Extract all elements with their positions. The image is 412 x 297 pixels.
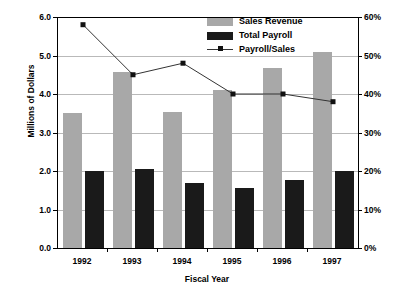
legend-item-payroll-sales: Payroll/Sales xyxy=(207,43,332,56)
y2-axis-tick-label: 0% xyxy=(364,244,408,253)
legend-swatch-icon-sales-revenue xyxy=(207,18,233,26)
line-marker-payroll-sales xyxy=(281,92,286,97)
y2-axis-tick-label: 60% xyxy=(364,13,408,22)
legend-label-total-payroll: Total Payroll xyxy=(239,31,292,40)
line-marker-payroll-sales xyxy=(131,72,136,77)
line-marker-payroll-sales xyxy=(231,92,236,97)
x-axis-title: Fiscal Year xyxy=(57,274,357,284)
y-axis-tick-label: 6.0 xyxy=(6,13,51,22)
y-axis-tick-label: 4.0 xyxy=(6,90,51,99)
x-axis-tick-mark xyxy=(307,248,308,252)
line-marker-payroll-sales xyxy=(181,61,186,66)
legend-line-marker-icon-payroll-sales xyxy=(207,45,233,54)
chart-legend: Sales Revenue Total Payroll Payroll/Sale… xyxy=(207,15,332,57)
line-marker-payroll-sales xyxy=(331,99,336,104)
legend-label-payroll-sales: Payroll/Sales xyxy=(239,45,295,54)
legend-item-total-payroll: Total Payroll xyxy=(207,29,332,42)
chart-container: Millions of Dollars 0.01.02.03.04.05.06.… xyxy=(0,0,412,297)
y2-axis-tick-label: 20% xyxy=(364,167,408,176)
y2-axis-tick-label: 30% xyxy=(364,128,408,137)
legend-swatch-icon-total-payroll xyxy=(207,32,233,40)
y2-axis-tick-label: 50% xyxy=(364,51,408,60)
y-axis-tick-label: 1.0 xyxy=(6,205,51,214)
y-axis-tick-label: 2.0 xyxy=(6,167,51,176)
x-axis-tick-mark xyxy=(157,248,158,252)
y-axis-tick-label: 0.0 xyxy=(6,244,51,253)
line-marker-payroll-sales xyxy=(81,22,86,27)
legend-label-sales-revenue: Sales Revenue xyxy=(239,17,303,26)
y-axis-tick-label: 3.0 xyxy=(6,128,51,137)
y2-axis-tick-label: 40% xyxy=(364,90,408,99)
legend-item-sales-revenue: Sales Revenue xyxy=(207,15,332,28)
y-axis-title: Millions of Dollars xyxy=(26,26,36,176)
x-axis-tick-mark xyxy=(107,248,108,252)
x-axis-tick-mark xyxy=(257,248,258,252)
y-axis-tick-label: 5.0 xyxy=(6,51,51,60)
x-axis-tick-mark xyxy=(207,248,208,252)
x-axis-tick-label-1997: 1997 xyxy=(302,256,362,266)
y2-axis-tick-label: 10% xyxy=(364,205,408,214)
